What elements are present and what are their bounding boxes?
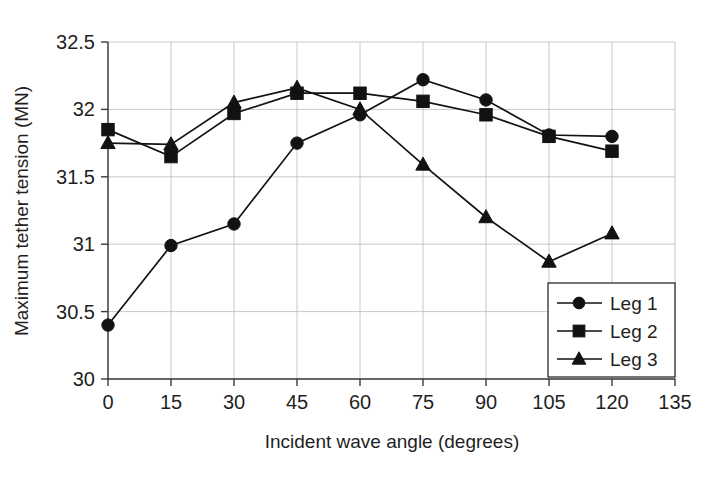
marker-square [228, 107, 240, 119]
x-tick-label: 60 [349, 391, 371, 413]
legend-label-3: Leg 3 [610, 349, 658, 370]
marker-circle [165, 239, 177, 251]
x-tick-label: 135 [658, 391, 691, 413]
x-tick-label: 0 [102, 391, 113, 413]
y-tick-label: 31.5 [56, 166, 95, 188]
y-tick-label: 30 [73, 368, 95, 390]
marker-square [606, 145, 618, 157]
marker-square [573, 325, 585, 337]
chart-legend: Leg 1Leg 2Leg 3 [548, 283, 675, 377]
marker-square [417, 95, 429, 107]
marker-circle [102, 319, 114, 331]
marker-square [165, 150, 177, 162]
marker-circle [573, 297, 585, 309]
chart-figure: 3030.53131.53232.50153045607590105120135… [0, 0, 714, 482]
marker-square [480, 109, 492, 121]
y-axis-title: Maximum tether tension (MN) [11, 86, 32, 336]
marker-square [102, 123, 114, 135]
marker-circle [291, 137, 303, 149]
marker-square [354, 87, 366, 99]
marker-square [543, 130, 555, 142]
legend-label-2: Leg 2 [610, 321, 658, 342]
marker-circle [417, 74, 429, 86]
tether-tension-line-chart: 3030.53131.53232.50153045607590105120135… [0, 0, 714, 482]
x-tick-label: 30 [223, 391, 245, 413]
marker-circle [480, 94, 492, 106]
y-tick-label: 32.5 [56, 31, 95, 53]
y-tick-label: 31 [73, 233, 95, 255]
x-tick-label: 45 [286, 391, 308, 413]
legend-label-1: Leg 1 [610, 293, 658, 314]
x-tick-label: 105 [532, 391, 565, 413]
y-tick-label: 32 [73, 98, 95, 120]
x-tick-label: 90 [475, 391, 497, 413]
y-tick-label: 30.5 [56, 301, 95, 323]
marker-circle [606, 130, 618, 142]
x-tick-label: 15 [160, 391, 182, 413]
x-tick-label: 75 [412, 391, 434, 413]
x-axis-title: Incident wave angle (degrees) [265, 431, 520, 452]
marker-circle [228, 218, 240, 230]
x-tick-label: 120 [595, 391, 628, 413]
